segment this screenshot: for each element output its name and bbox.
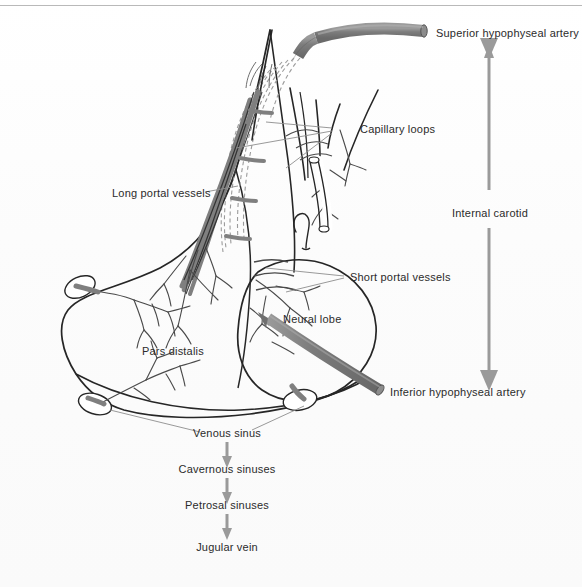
- superior-hypophyseal-artery-vessel: [292, 25, 427, 62]
- stalk-arteriole-stubs: [226, 110, 272, 239]
- label-superior-hypophyseal-artery: Superior hypophyseal artery: [436, 27, 579, 39]
- venous-sinus-lower-right: [281, 387, 318, 414]
- capillary-loop-arcade-tube: [309, 157, 329, 232]
- label-long-portal-vessels: Long portal vessels: [112, 187, 211, 199]
- lobe-separation-arc: [236, 170, 250, 388]
- label-neural-lobe: Neural lobe: [283, 313, 341, 325]
- pituitary-vasculature-figure: Superior hypophyseal artery Capillary lo…: [0, 0, 582, 587]
- capillary-tufts: [246, 62, 272, 90]
- label-petrosal-sinuses: Petrosal sinuses: [185, 499, 269, 511]
- label-internal-carotid: Internal carotid: [452, 207, 528, 219]
- figure-canvas: [0, 0, 582, 587]
- label-venous-sinus: Venous sinus: [193, 427, 261, 439]
- sha-tube-bend: [298, 38, 316, 56]
- label-inferior-hypophyseal-artery: Inferior hypophyseal artery: [390, 386, 526, 398]
- label-capillary-loops: Capillary loops: [360, 123, 435, 135]
- label-cavernous-sinuses: Cavernous sinuses: [179, 463, 276, 475]
- label-pars-distalis: Pars distalis: [142, 345, 204, 357]
- venous-sinus-lower-left: [76, 389, 115, 419]
- gland-lower-border: [76, 374, 368, 410]
- residual-cleft-duct: [294, 214, 309, 248]
- label-short-portal-vessels: Short portal vessels: [350, 271, 451, 283]
- label-jugular-vein: Jugular vein: [196, 541, 258, 553]
- iha-tube: [268, 318, 380, 390]
- pars-distalis-capillary-network: [86, 248, 232, 402]
- upper-capillary-arcades: [286, 130, 332, 160]
